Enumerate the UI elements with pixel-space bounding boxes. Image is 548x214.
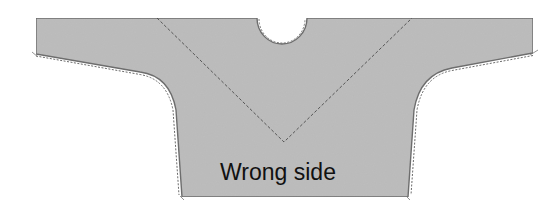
garment-diagram: Wrong side (0, 0, 548, 214)
wrong-side-label: Wrong side (220, 159, 336, 185)
